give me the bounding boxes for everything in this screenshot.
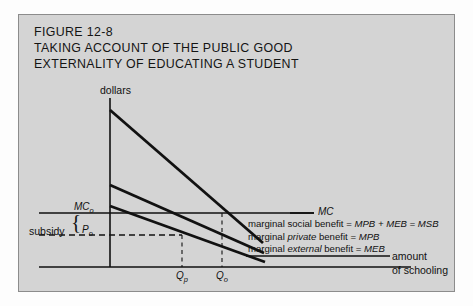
y-tick-mc0: MCo [74,201,94,215]
legend-msb-rhs: MPB + MEB = MSB [354,218,438,229]
figure-title-line-2: TAKING ACCOUNT OF THE PUBLIC GOOD [34,41,293,55]
x-tick-qo-sub: o [224,275,228,284]
figure-title: FIGURE 12-8TAKING ACCOUNT OF THE PUBLIC … [34,24,299,73]
y-axis-label: dollars [100,84,131,96]
y-tick-mc0-sub: o [90,206,94,215]
legend-item-mpb: marginal private benefit = MPB [248,231,439,244]
legend-meb-em: external [287,243,321,254]
subsidy-brace: { [71,212,81,233]
x-axis-label-line-2: of schooling [392,264,448,276]
legend-msb-eq: = [346,218,352,229]
legend-mpb-rhs: MPB [359,231,380,242]
x-tick-qp: Qp [176,270,188,284]
figure-root: FIGURE 12-8TAKING ACCOUNT OF THE PUBLIC … [0,0,473,306]
legend-msb-text: marginal social benefit [248,218,343,229]
x-tick-qp-base: Q [176,270,184,281]
legend-meb-eq: = [356,243,362,254]
curve-label-mc: MC [318,206,334,217]
legend-mpb-text-a: marginal [248,231,285,242]
y-tick-p0-sub: o [89,229,93,238]
legend-item-msb: marginal social benefit = MPB + MEB = MS… [248,218,439,231]
y-tick-p0-base: P [82,224,89,235]
y-tick-mc0-base: MC [74,201,90,212]
x-tick-qo-base: Q [216,270,224,281]
x-tick-qp-sub: p [184,275,188,284]
legend-meb-text-b: benefit [324,243,353,254]
legend-meb-text-a: marginal [248,243,285,254]
y-tick-p0: Po [82,224,93,238]
curve-legend: marginal social benefit = MPB + MEB = MS… [248,218,439,256]
legend-item-meb: marginal external benefit = MEB [248,243,439,256]
figure-title-line-3: EXTERNALITY OF EDUCATING A STUDENT [34,57,299,71]
subsidy-label: subsidy [29,225,65,237]
legend-mpb-text-b: benefit [319,231,348,242]
legend-mpb-em: private [287,231,316,242]
x-tick-qo: Qo [216,270,228,284]
legend-meb-rhs: MEB [364,243,385,254]
legend-mpb-eq: = [350,231,356,242]
figure-title-line-1: FIGURE 12-8 [34,25,113,39]
